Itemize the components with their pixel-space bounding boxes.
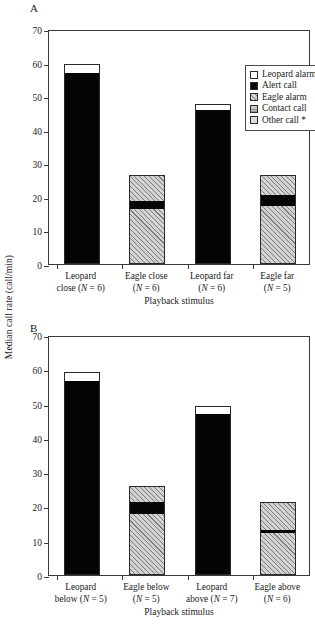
x-tick-label: Eagle close(N = 6) xyxy=(114,271,180,294)
x-tick xyxy=(253,575,254,580)
y-tick-label: 70 xyxy=(33,332,43,342)
bar-segment-eagle-alarm xyxy=(260,206,296,264)
x-tick-label: Leopardclose (N = 6) xyxy=(48,271,114,294)
bar-segment-eagle-alarm xyxy=(129,514,165,575)
y-tick xyxy=(44,440,49,441)
y-tick-label: 0 xyxy=(37,261,42,271)
panel-a-x-tick-labels: Leopardclose (N = 6)Eagle close(N = 6)Le… xyxy=(48,271,310,294)
y-tick-label: 70 xyxy=(33,26,43,36)
bar-segment-eagle-alarm xyxy=(129,209,165,264)
legend-item: Eagle alarm xyxy=(250,92,315,103)
y-tick xyxy=(44,199,49,200)
bar[interactable] xyxy=(260,502,296,575)
legend-label: Other call * xyxy=(262,115,306,126)
bar-segment-alert-call xyxy=(129,502,165,514)
y-tick-label: 30 xyxy=(33,469,43,479)
y-tick-label: 20 xyxy=(33,503,43,513)
bar-segment-alert-call xyxy=(195,414,231,575)
legend-item: Contact call xyxy=(250,103,315,114)
bar[interactable] xyxy=(260,175,296,264)
y-tick-label: 50 xyxy=(33,93,43,103)
x-tick-label: Leopard far(N = 6) xyxy=(179,271,245,294)
legend-swatch-eagle-alarm-icon xyxy=(250,93,258,101)
panel-a-letter: A xyxy=(30,2,38,14)
bar-segment-eagle-alarm xyxy=(129,486,165,502)
panel-b-bars xyxy=(49,337,309,575)
legend-swatch-contact-call-icon xyxy=(250,105,258,113)
x-tick-label: Eagle far(N = 5) xyxy=(245,271,311,294)
y-tick xyxy=(44,406,49,407)
panel-a-x-axis-title: Playback stimulus xyxy=(48,296,310,306)
panel-b-plot-area: 010203040506070 xyxy=(48,336,310,576)
y-tick xyxy=(44,65,49,66)
x-tick-label: Leopardbelow (N = 5) xyxy=(48,582,114,605)
legend-label: Alert call xyxy=(262,80,297,91)
bar-segment-eagle-alarm xyxy=(260,533,296,575)
bar[interactable] xyxy=(129,175,165,264)
legend-label: Eagle alarm xyxy=(262,92,307,103)
y-tick-label: 60 xyxy=(33,60,43,70)
bar[interactable] xyxy=(195,406,231,575)
x-tick-label: Eagle below(N = 5) xyxy=(114,582,180,605)
y-tick xyxy=(44,508,49,509)
x-tick xyxy=(188,575,189,580)
y-tick xyxy=(44,577,49,578)
bar[interactable] xyxy=(64,64,100,264)
legend-item: Other call * xyxy=(250,115,315,126)
y-tick-label: 10 xyxy=(33,227,43,237)
y-tick xyxy=(44,337,49,338)
bar-segment-alert-call xyxy=(260,530,296,533)
x-tick-label: Leopardabove (N = 7) xyxy=(179,582,245,605)
y-tick-label: 50 xyxy=(33,401,43,411)
panel-b-x-axis-title: Playback stimulus xyxy=(48,607,310,617)
legend-label: Contact call xyxy=(262,103,307,114)
x-tick xyxy=(57,264,58,269)
y-tick-label: 60 xyxy=(33,366,43,376)
y-tick xyxy=(44,232,49,233)
bar-segment-leopard-alarm xyxy=(195,104,231,110)
legend-item: Leopard alarm xyxy=(250,69,315,80)
y-tick xyxy=(44,98,49,99)
y-tick xyxy=(44,543,49,544)
bar-segment-alert-call xyxy=(129,201,165,208)
bar-segment-eagle-alarm xyxy=(129,175,165,201)
x-tick xyxy=(57,575,58,580)
legend: Leopard alarm Alert call Eagle alarm Con… xyxy=(245,65,315,131)
bar-segment-eagle-alarm xyxy=(260,175,296,194)
legend-swatch-other-call-icon xyxy=(250,116,258,124)
y-tick xyxy=(44,474,49,475)
y-tick-label: 30 xyxy=(33,160,43,170)
bar-segment-leopard-alarm xyxy=(64,372,100,381)
legend-swatch-leopard-alarm-icon xyxy=(250,71,258,79)
x-tick xyxy=(122,575,123,580)
x-tick xyxy=(188,264,189,269)
y-tick xyxy=(44,266,49,267)
y-tick xyxy=(44,31,49,32)
x-tick-label: Eagle above(N = 6) xyxy=(245,582,311,605)
bar[interactable] xyxy=(64,372,100,575)
y-tick-label: 40 xyxy=(33,435,43,445)
y-tick xyxy=(44,132,49,133)
x-tick xyxy=(122,264,123,269)
panel-b: B 010203040506070 Leopardbelow (N = 5)Ea… xyxy=(0,320,315,633)
bar-segment-leopard-alarm xyxy=(195,406,231,414)
panel-b-x-tick-labels: Leopardbelow (N = 5)Eagle below(N = 5)Le… xyxy=(48,582,310,605)
bar-segment-eagle-alarm xyxy=(260,502,296,530)
bar-segment-alert-call xyxy=(64,381,100,575)
bar[interactable] xyxy=(129,486,165,575)
y-tick xyxy=(44,165,49,166)
bar-segment-alert-call xyxy=(64,73,100,264)
y-tick-label: 40 xyxy=(33,127,43,137)
bar-segment-alert-call xyxy=(260,195,296,206)
legend-swatch-alert-call-icon xyxy=(250,82,258,90)
panel-a: A Leopard alarm Alert call Eagle alarm xyxy=(0,0,315,320)
y-tick-label: 0 xyxy=(37,572,42,582)
y-tick-label: 10 xyxy=(33,538,43,548)
x-tick xyxy=(253,264,254,269)
panel-a-plot-area: Leopard alarm Alert call Eagle alarm Con… xyxy=(48,30,310,265)
y-tick-label: 20 xyxy=(33,194,43,204)
figure-container: Median call rate (call/min) A Leopard al… xyxy=(0,0,315,633)
legend-label: Leopard alarm xyxy=(262,69,315,80)
bar[interactable] xyxy=(195,104,231,264)
legend-item: Alert call xyxy=(250,80,315,91)
